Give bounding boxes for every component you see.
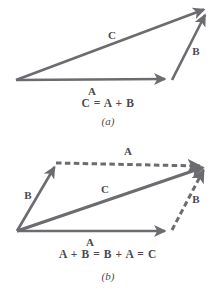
vector-label-b-panel-a: B (192, 45, 200, 57)
vector-a-line-panel-a (16, 79, 165, 80)
figure-canvas: A B C C = A + B (a) A B A B C A + B = B … (0, 0, 219, 292)
equation-panel-a: C = A + B (81, 97, 134, 109)
vector-c-line-panel-a (16, 10, 204, 81)
vector-label-c-panel-a: C (108, 29, 116, 41)
vector-label-a-top-panel-b: A (124, 145, 132, 157)
panel-b: A B A B C A + B = B + A = C (b) (17, 145, 204, 283)
vector-a-top-line-panel-b (56, 163, 200, 166)
vector-label-a-bottom-panel-b: A (86, 236, 94, 248)
vector-b-line-panel-a (172, 15, 205, 80)
panel-a: A B C C = A + B (a) (16, 10, 205, 128)
equation-panel-b: A + B = B + A = C (59, 248, 157, 260)
vector-addition-figure: A B C C = A + B (a) A B A B C A + B = B … (0, 0, 219, 292)
vector-label-b-right-panel-b: B (192, 193, 200, 205)
vector-label-c-diagonal-panel-b: C (101, 183, 109, 195)
caption-panel-b: (b) (102, 270, 115, 283)
vector-label-b-left-panel-b: B (24, 189, 32, 201)
caption-panel-a: (a) (102, 115, 115, 128)
vector-label-a-panel-a: A (88, 85, 96, 97)
